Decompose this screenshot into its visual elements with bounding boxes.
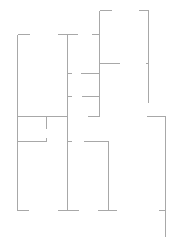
floor-plan-diagram xyxy=(0,0,177,237)
